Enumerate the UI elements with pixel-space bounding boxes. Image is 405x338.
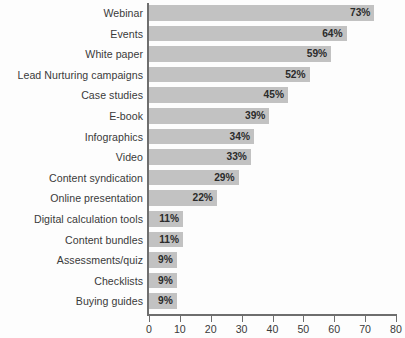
category-label: Webinar [0,5,143,21]
category-label: Content bundles [0,232,143,248]
category-label: Video [0,149,143,165]
bar-row: Checklists9% [0,273,405,294]
x-tick-label: 80 [381,323,405,335]
bar-value-label: 73% [350,5,370,21]
category-label: Assessments/quiz [0,252,143,268]
bar-value-label: 9% [158,252,173,268]
bar-value-label: 9% [158,273,173,289]
bar: 9% [149,273,177,289]
category-label: Case studies [0,87,143,103]
bar-row: Assessments/quiz9% [0,252,405,273]
bar: 34% [149,129,254,145]
bar: 39% [149,108,269,124]
bar-value-label: 29% [214,170,234,186]
bar-value-label: 39% [245,108,265,124]
category-label: E-book [0,108,143,124]
category-label: White paper [0,46,143,62]
bar-value-label: 22% [193,190,213,206]
category-label: Events [0,26,143,42]
bar-value-label: 9% [158,293,173,309]
bar-row: Case studies45% [0,87,405,108]
bar-row: Online presentation22% [0,190,405,211]
category-label: Buying guides [0,293,143,309]
bar-row: Events64% [0,26,405,47]
category-label: Digital calculation tools [0,211,143,227]
bar-chart: Webinar73%Events64%White paper59%Lead Nu… [0,0,405,338]
x-tick-label: 70 [350,323,380,335]
bar-value-label: 45% [264,87,284,103]
bar: 73% [149,5,374,21]
x-tick [149,316,150,322]
bar: 52% [149,67,310,83]
category-label: Content syndication [0,170,143,186]
x-tick-label: 60 [319,323,349,335]
x-tick [365,316,366,322]
x-tick [211,316,212,322]
category-label: Infographics [0,129,143,145]
category-label: Checklists [0,273,143,289]
x-tick-label: 50 [288,323,318,335]
bar-row: Infographics34% [0,129,405,150]
bar: 22% [149,190,217,206]
x-tick-label: 10 [165,323,195,335]
x-tick-label: 30 [227,323,257,335]
bar-row: Video33% [0,149,405,170]
bar-value-label: 64% [322,26,342,42]
bar-value-label: 11% [159,211,179,227]
x-tick [180,316,181,322]
x-tick [242,316,243,322]
x-tick [334,316,335,322]
bar-row: Lead Nurturing campaigns52% [0,67,405,88]
category-label: Online presentation [0,190,143,206]
bar-row: Webinar73% [0,5,405,26]
bar-value-label: 11% [159,232,179,248]
category-label: Lead Nurturing campaigns [0,67,143,83]
bar: 33% [149,149,251,165]
bar: 59% [149,46,331,62]
bar-row: Buying guides9% [0,293,405,314]
bar: 11% [149,232,183,248]
x-tick [273,316,274,322]
bar: 11% [149,211,183,227]
x-tick-label: 40 [258,323,288,335]
bar: 9% [149,252,177,268]
x-tick-label: 20 [196,323,226,335]
x-tick-label: 0 [134,323,164,335]
bar: 29% [149,170,239,186]
bar-value-label: 33% [226,149,246,165]
bar-value-label: 59% [307,46,327,62]
bar: 45% [149,87,288,103]
bar: 64% [149,26,347,42]
x-tick [396,316,397,322]
bar-row: Content bundles11% [0,232,405,253]
bar-value-label: 34% [230,129,250,145]
bar-row: Content syndication29% [0,170,405,191]
bar-value-label: 52% [285,67,305,83]
bar: 9% [149,293,177,309]
bar-row: White paper59% [0,46,405,67]
bar-row: Digital calculation tools11% [0,211,405,232]
bar-row: E-book39% [0,108,405,129]
x-tick [303,316,304,322]
plot-area: Webinar73%Events64%White paper59%Lead Nu… [0,0,405,338]
